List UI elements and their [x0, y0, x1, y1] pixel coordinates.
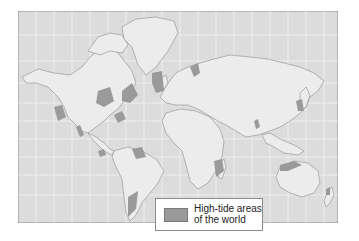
legend: High-tide areas of the world: [155, 198, 263, 231]
legend-label: High-tide areas of the world: [194, 203, 262, 225]
legend-label-line1: High-tide areas: [194, 203, 262, 214]
legend-swatch-high-tide: [164, 208, 188, 222]
legend-label-line2: of the world: [194, 214, 262, 225]
world-map: [18, 11, 338, 223]
